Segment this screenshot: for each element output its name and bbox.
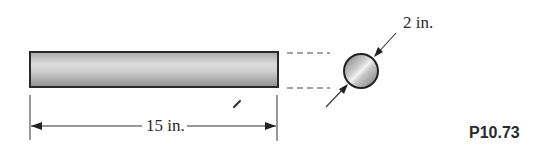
diagram-canvas: 15 in. 2 in. P10.73 [0,0,559,158]
scan-artifact-mark [234,101,240,107]
diameter-label: 2 in. [403,14,433,31]
arrowhead-right-icon [265,122,276,130]
arrowhead-left-icon [31,122,42,130]
rod-elevation [30,52,278,87]
figure-number: P10.73 [469,125,520,141]
cross-section-circle [344,54,378,88]
length-label: 15 in. [144,117,187,134]
